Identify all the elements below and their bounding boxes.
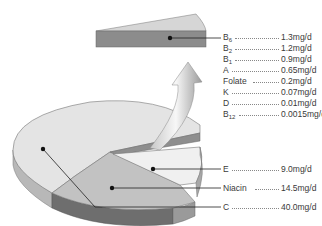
label-b2: B2 1.2mg/d: [223, 43, 318, 53]
label-b12: B12 0.0015mg/d: [223, 109, 318, 119]
label-a: A 0.65mg/d: [223, 65, 318, 75]
exploded-slice: [96, 14, 206, 47]
label-d: D 0.01mg/d: [223, 98, 318, 108]
label-k: K 0.07mg/d: [223, 87, 318, 97]
label-c: C 40.0mg/d: [223, 202, 318, 212]
label-b1: B1 0.9mg/d: [223, 54, 318, 64]
label-folate: Folate 0.2mg/d: [223, 76, 318, 86]
label-e: E 9.0mg/d: [223, 164, 318, 174]
label-b6: B6 1.3mg/d: [223, 32, 318, 42]
label-niacin: Niacin 14.5mg/d: [223, 183, 318, 193]
